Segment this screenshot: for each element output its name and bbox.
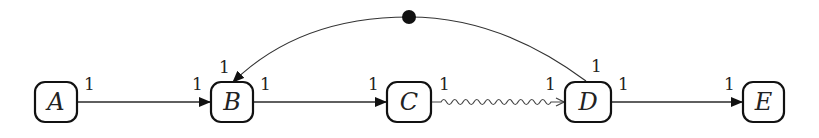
edge-d-e-target-weight: 1 <box>724 74 735 94</box>
edge-b-c-target-weight: 1 <box>368 74 379 94</box>
edge-a-b-target-weight: 1 <box>192 74 203 94</box>
edge-d-b-source-weight: 1 <box>591 56 602 76</box>
node-b[interactable]: B <box>211 82 253 122</box>
edge-c-d: 1 1 <box>431 74 564 105</box>
edge-c-d-source-weight: 1 <box>439 74 450 94</box>
edge-d-e-source-weight: 1 <box>618 74 629 94</box>
node-c[interactable]: C <box>387 82 431 122</box>
edge-b-c-source-weight: 1 <box>260 74 271 94</box>
node-a[interactable]: A <box>35 82 77 122</box>
edge-a-b-source-weight: 1 <box>84 74 95 94</box>
edge-d-b: 1 1 <box>219 10 602 82</box>
edge-d-b-arc-left <box>233 17 409 82</box>
node-e[interactable]: E <box>743 82 784 122</box>
graph-diagram: 1 1 1 1 1 1 1 1 1 1 A B C D <box>0 0 819 138</box>
node-d-label: D <box>577 88 597 116</box>
node-a-label: A <box>45 88 64 116</box>
edge-c-d-wavy-line <box>431 100 564 105</box>
node-b-label: B <box>222 88 241 116</box>
edge-d-e: 1 1 <box>611 74 742 102</box>
edge-c-d-target-weight: 1 <box>545 74 556 94</box>
edge-b-c: 1 1 <box>253 74 386 102</box>
edge-d-b-target-weight: 1 <box>219 57 230 77</box>
arc-midpoint-dot <box>402 10 416 24</box>
node-e-label: E <box>754 88 773 116</box>
edge-a-b: 1 1 <box>77 74 210 102</box>
node-c-label: C <box>400 88 418 116</box>
node-d[interactable]: D <box>565 82 611 122</box>
edge-d-b-arc-right <box>409 17 586 81</box>
